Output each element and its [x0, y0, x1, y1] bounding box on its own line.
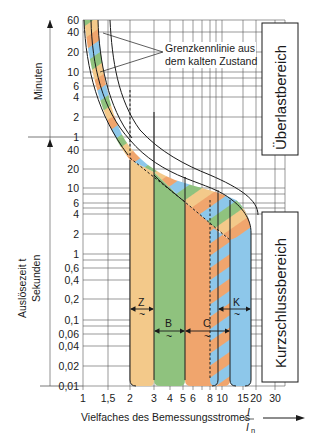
svg-text:~: ~ — [166, 330, 172, 342]
grenz-label-line1: Grenzkennlinie aus — [165, 42, 255, 54]
svg-text:6: 6 — [190, 392, 196, 404]
svg-text:4: 4 — [73, 91, 79, 103]
x-tick-labels: 1 1,5 2 3 4 5 6 8 10 15 20 30 — [80, 392, 281, 404]
trip-characteristic-chart: Grenzkennlinie aus dem kalten Zustand Üb… — [0, 0, 321, 445]
svg-text:0,4: 0,4 — [64, 274, 79, 286]
svg-text:Vielfaches des Bemessungsstrom: Vielfaches des Bemessungsstromes — [81, 411, 250, 423]
svg-text:2: 2 — [73, 111, 79, 123]
svg-text:3: 3 — [151, 392, 157, 404]
svg-text:15: 15 — [237, 392, 249, 404]
svg-text:1: 1 — [80, 392, 86, 404]
svg-text:n: n — [251, 426, 255, 435]
grenz-label-line2: dem kalten Zustand — [165, 55, 257, 67]
svg-text:5: 5 — [180, 392, 186, 404]
svg-text:10: 10 — [216, 392, 228, 404]
svg-text:20: 20 — [67, 163, 79, 175]
grenzkennlinie-annotation: Grenzkennlinie aus dem kalten Zustand — [100, 33, 257, 72]
svg-text:Überlastbereich: Überlastbereich — [272, 45, 289, 150]
region-B — [154, 172, 185, 386]
svg-text:~: ~ — [204, 330, 210, 342]
svg-text:30: 30 — [269, 392, 281, 404]
kurzschluss-box: Kurzschlussbereich — [262, 212, 298, 382]
svg-text:40: 40 — [67, 26, 79, 38]
sekunden-label: Sekunden — [30, 255, 42, 302]
label-B: B — [165, 317, 172, 329]
svg-text:~: ~ — [139, 308, 145, 320]
minuten-label: Minuten — [32, 62, 44, 100]
svg-text:0,06: 0,06 — [59, 328, 80, 340]
svg-text:1: 1 — [73, 248, 79, 260]
svg-text:8: 8 — [207, 392, 213, 404]
svg-text:I: I — [247, 406, 250, 418]
auslosezeit-label: Auslösezeit t — [16, 258, 28, 318]
ueberlast-box: Überlastbereich — [262, 23, 298, 155]
svg-text:10: 10 — [67, 182, 79, 194]
svg-text:0,02: 0,02 — [59, 360, 80, 372]
svg-text:4: 4 — [73, 208, 79, 220]
label-Z: Z — [138, 296, 145, 308]
svg-text:0,2: 0,2 — [64, 293, 79, 305]
svg-text:0,01: 0,01 — [59, 380, 80, 392]
label-C: C — [203, 317, 211, 329]
svg-text:20: 20 — [67, 46, 79, 58]
svg-text:1,5: 1,5 — [101, 392, 116, 404]
svg-text:10: 10 — [67, 66, 79, 78]
svg-text:~: ~ — [234, 308, 240, 320]
svg-text:60: 60 — [67, 14, 79, 26]
label-K: K — [233, 296, 240, 308]
svg-text:0,04: 0,04 — [59, 340, 80, 352]
region-Z — [130, 160, 154, 386]
svg-text:1: 1 — [73, 131, 79, 143]
x-axis-arrow-icon — [296, 415, 305, 421]
svg-text:40: 40 — [67, 144, 79, 156]
svg-text:20: 20 — [250, 392, 262, 404]
svg-text:2: 2 — [73, 228, 79, 240]
svg-text:0,6: 0,6 — [64, 262, 79, 274]
svg-text:2: 2 — [127, 392, 133, 404]
svg-text:0,1: 0,1 — [64, 314, 79, 326]
svg-text:Kurzschlussbereich: Kurzschlussbereich — [272, 238, 289, 368]
svg-text:4: 4 — [167, 392, 173, 404]
x-axis-label: Vielfaches des Bemessungsstromes I I n — [81, 406, 305, 435]
region-CK-overlap — [210, 226, 230, 386]
y-tick-labels: 60 40 20 10 6 4 2 1 40 20 10 6 4 2 1 0,6… — [59, 14, 80, 392]
svg-text:I: I — [246, 421, 249, 433]
